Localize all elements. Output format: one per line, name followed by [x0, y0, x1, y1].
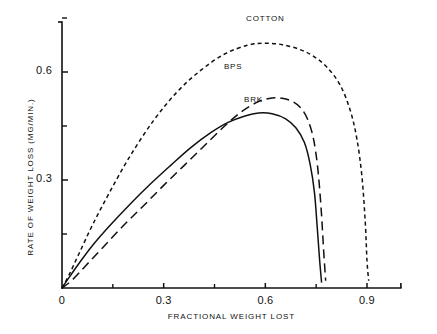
chart-figure: 0.6 0.3 0 0.3 0.6 0.9 RATE OF WEIGHT LOS…	[0, 0, 437, 334]
y-tick-label-0-3: 0.3	[36, 172, 52, 184]
y-tick-label-0-6: 0.6	[36, 64, 52, 76]
series-label-brk: BRK	[244, 95, 263, 104]
y-axis-title: RATE OF WEIGHT LOSS (MG/MIN.)	[26, 98, 35, 255]
x-tick-label-0: 0	[59, 294, 65, 306]
chart-curves	[62, 43, 369, 288]
curve-brk	[62, 113, 322, 288]
y-axis-title-wrapper: RATE OF WEIGHT LOSS (MG/MIN.)	[19, 77, 37, 277]
x-tick-label-0-3: 0.3	[156, 294, 172, 306]
series-label-cotton: COTTON	[246, 14, 284, 23]
x-tick-label-0-9: 0.9	[359, 294, 375, 306]
x-axis-title: FRACTIONAL WEIGHT LOST	[168, 312, 295, 321]
x-tick-label-0-6: 0.6	[257, 294, 273, 306]
series-label-bps: BPS	[224, 62, 242, 71]
chart-plot-area	[0, 0, 437, 334]
chart-axes	[58, 18, 401, 288]
curve-cotton	[62, 43, 369, 288]
curve-bps	[62, 98, 326, 288]
